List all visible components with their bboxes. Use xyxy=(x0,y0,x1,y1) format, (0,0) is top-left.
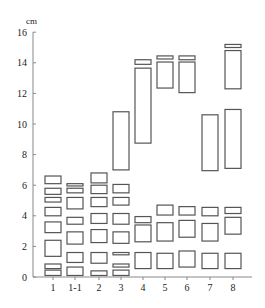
range-box xyxy=(91,173,107,183)
range-box xyxy=(157,253,173,268)
y-tick-label: 16 xyxy=(17,27,27,38)
x-tick-label: 3 xyxy=(119,282,124,293)
y-tick-label: 14 xyxy=(17,57,27,68)
range-box xyxy=(202,223,218,241)
range-box xyxy=(135,68,151,143)
y-tick-label: 2 xyxy=(22,241,27,252)
range-box xyxy=(113,184,129,192)
range-box xyxy=(157,205,173,215)
range-box xyxy=(179,207,195,215)
range-box xyxy=(135,225,151,242)
range-box xyxy=(202,253,218,268)
range-box xyxy=(113,214,129,225)
range-box xyxy=(225,207,241,213)
range-box xyxy=(113,270,129,275)
range-box xyxy=(45,264,61,269)
y-unit-label: cm xyxy=(26,16,37,26)
y-tick-label: 0 xyxy=(22,272,27,283)
range-box xyxy=(45,188,61,194)
y-tick-label: 6 xyxy=(22,180,27,191)
range-box xyxy=(91,230,107,243)
range-box xyxy=(91,253,107,264)
range-box-chart: 0246810121416 11-12345678 cm xyxy=(0,0,265,308)
range-box xyxy=(67,184,83,186)
x-tick-label: 6 xyxy=(185,282,190,293)
range-box xyxy=(45,240,61,256)
x-tick-label: 8 xyxy=(231,282,236,293)
category-group-1-1 xyxy=(67,184,83,276)
range-box xyxy=(67,232,83,244)
range-box xyxy=(135,60,151,65)
y-tick-label: 12 xyxy=(17,88,27,99)
range-box xyxy=(202,115,218,171)
range-box xyxy=(179,220,195,237)
range-box xyxy=(179,56,195,60)
range-box xyxy=(67,197,83,208)
range-box xyxy=(113,112,129,170)
range-box xyxy=(113,253,129,255)
category-group-4 xyxy=(135,60,151,269)
range-box xyxy=(67,253,83,263)
range-box xyxy=(157,56,173,59)
range-box xyxy=(225,109,241,168)
range-box xyxy=(225,253,241,268)
y-axis: 0246810121416 xyxy=(17,27,36,283)
range-box xyxy=(113,232,129,243)
range-box xyxy=(179,62,195,93)
range-box xyxy=(135,217,151,223)
x-tick-label: 2 xyxy=(97,282,102,293)
category-group-1 xyxy=(45,176,61,275)
range-box xyxy=(113,197,129,205)
y-tick-label: 10 xyxy=(17,119,27,130)
range-box xyxy=(113,264,129,267)
range-box xyxy=(67,188,83,193)
range-box xyxy=(225,51,241,89)
y-tick-label: 8 xyxy=(22,149,27,160)
range-box xyxy=(45,176,61,184)
y-tick-label: 4 xyxy=(22,210,27,221)
range-box xyxy=(91,185,107,193)
range-box xyxy=(67,267,83,275)
category-group-7 xyxy=(202,115,218,269)
plot-area xyxy=(45,44,241,275)
category-group-3 xyxy=(113,112,129,276)
range-box xyxy=(202,207,218,215)
range-box xyxy=(179,251,195,267)
x-tick-label: 4 xyxy=(141,282,146,293)
range-box xyxy=(45,207,61,215)
range-box xyxy=(91,197,107,206)
range-box xyxy=(45,197,61,202)
range-box xyxy=(91,271,107,276)
x-tick-label: 1 xyxy=(51,282,56,293)
category-group-8 xyxy=(225,44,241,268)
x-tick-label: 1-1 xyxy=(68,282,81,293)
x-axis: 11-12345678 xyxy=(33,277,252,293)
category-group-2 xyxy=(91,173,107,276)
range-box xyxy=(157,223,173,241)
range-box xyxy=(91,214,107,224)
range-box xyxy=(45,222,61,233)
category-group-5 xyxy=(157,56,173,269)
x-tick-label: 5 xyxy=(163,282,168,293)
range-box xyxy=(135,253,151,269)
range-box xyxy=(225,44,241,47)
category-group-6 xyxy=(179,56,195,267)
range-box xyxy=(45,270,61,275)
range-box xyxy=(157,62,173,88)
range-box xyxy=(225,217,241,234)
range-box xyxy=(67,217,83,224)
x-tick-label: 7 xyxy=(208,282,213,293)
